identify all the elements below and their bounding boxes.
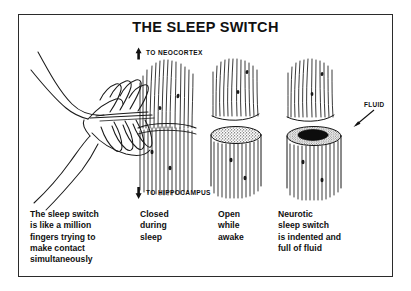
label-fluid: FLUID [364,101,385,108]
sleep-switch-figure: THE SLEEP SWITCH [0,0,411,291]
hands-illustration [31,52,154,210]
leader-arrow-icon [354,110,375,127]
caption-neurotic: Neurotic sleep switch is indented and fu… [278,209,390,254]
arrow-up-icon [136,48,142,60]
label-to-hippocampus: TO HIPPOCAMPUS [146,189,211,196]
label-to-neocortex: TO NEOCORTEX [146,49,203,56]
caption-open: Open while awake [218,209,274,243]
column-neurotic-illustration [287,59,341,200]
caption-closed: Closed during sleep [140,209,202,243]
caption-hands: The sleep switch is like a million finge… [30,209,134,265]
column-open-illustration [211,59,261,198]
column-closed-illustration [138,60,196,195]
arrow-down-icon [136,187,142,199]
